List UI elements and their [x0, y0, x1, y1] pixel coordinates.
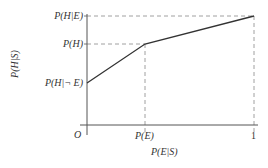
origin-label: O: [74, 130, 81, 140]
y-tick-label-phe: P(H|E): [54, 11, 83, 21]
y-axis-title: P(H|S): [10, 47, 20, 81]
y-tick-label-ph: P(H): [63, 39, 83, 49]
x-axis-title: P(E|S): [151, 147, 178, 157]
x-tick-label-one: 1: [251, 131, 256, 141]
chart-canvas: [0, 0, 268, 168]
x-tick-label-pe: P(E): [135, 131, 154, 141]
series-line: [87, 16, 254, 83]
y-tick-label-phne: P(H|¬ E): [45, 78, 83, 88]
